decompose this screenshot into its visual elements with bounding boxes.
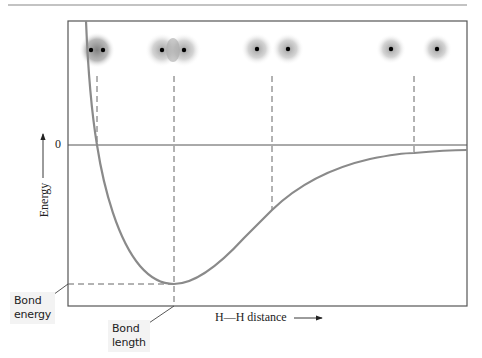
zero-label: 0: [55, 137, 61, 152]
atom-pair-4: [376, 34, 452, 64]
x-axis-label: H—H distance: [215, 310, 287, 325]
bond-length-label: Bond length: [108, 320, 150, 352]
bond-length-line2: length: [112, 336, 146, 350]
bond-length-leader: [146, 306, 174, 325]
atom-pair-3: [241, 33, 304, 65]
bond-energy-line1: Bond: [14, 294, 51, 308]
bond-energy-line2: energy: [14, 308, 51, 322]
potential-energy-curve: [86, 21, 467, 284]
bond-length-line1: Bond: [112, 322, 146, 336]
atom-pair-1: [79, 32, 115, 68]
energy-diagram: Energy: [0, 0, 482, 358]
atom-pair-2: [145, 33, 201, 67]
x-axis-label-text: H—H distance: [215, 310, 287, 324]
bond-energy-label: Bond energy: [10, 292, 55, 324]
plot-frame: [68, 21, 467, 306]
y-axis-label: Energy: [37, 183, 51, 217]
